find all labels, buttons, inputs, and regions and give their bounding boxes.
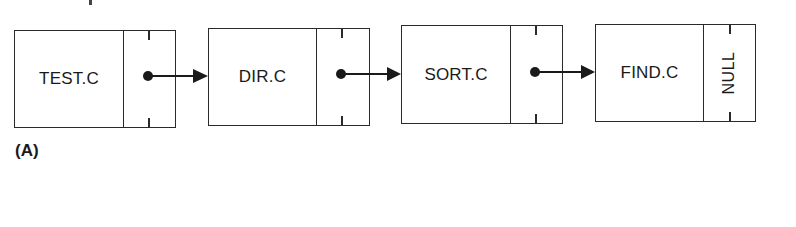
pointer-arrows bbox=[0, 0, 796, 227]
arrow-dir-to-sort bbox=[336, 67, 401, 81]
figure-caption: (A) bbox=[15, 141, 39, 161]
arrow-test-to-dir bbox=[143, 69, 208, 83]
arrow-sort-to-find bbox=[530, 65, 595, 79]
